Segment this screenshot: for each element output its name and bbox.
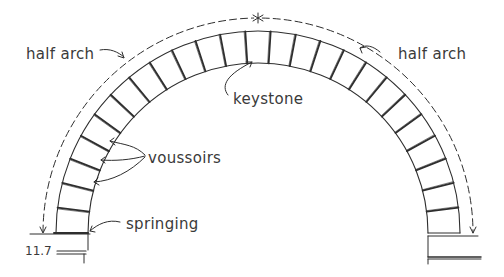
label-half-arch-right: half arch [398,45,466,63]
voussoir-joint [407,136,435,151]
voussoir-joint [111,95,134,117]
voussoir-joint [423,183,454,191]
figure-number: 11.7 [25,244,52,258]
voussoir-joint [245,31,247,63]
voussoirs-leader-1 [110,141,145,155]
voussoir-joint [196,41,206,71]
arch-diagram: half arch half arch keystone voussoirs s… [0,0,504,277]
voussoir-joint [311,41,321,71]
label-springing: springing [126,215,199,233]
voussoir-joint [220,35,226,66]
label-keystone: keystone [233,90,303,108]
half-arch-left-leader [100,49,124,57]
springing-leader [90,221,120,231]
voussoir-joint [150,62,167,89]
voussoir-joint [172,50,186,79]
voussoir-joint [81,136,109,151]
voussoir-joint [62,183,93,191]
voussoir-joint [349,62,366,89]
voussoirs-leader-2 [101,156,145,160]
voussoir-joint [95,114,121,133]
voussoir-joint [129,77,149,102]
voussoir-joint [330,50,344,79]
voussoir-joint [366,77,386,102]
right-abutment [428,236,481,264]
voussoir-joint [416,159,446,171]
voussoir-joint [382,95,405,117]
voussoir-joint [396,114,422,133]
voussoir-joint [70,159,100,171]
label-voussoirs: voussoirs [148,149,221,167]
voussoir-joint [290,35,296,66]
label-half-arch-left: half arch [26,45,94,63]
